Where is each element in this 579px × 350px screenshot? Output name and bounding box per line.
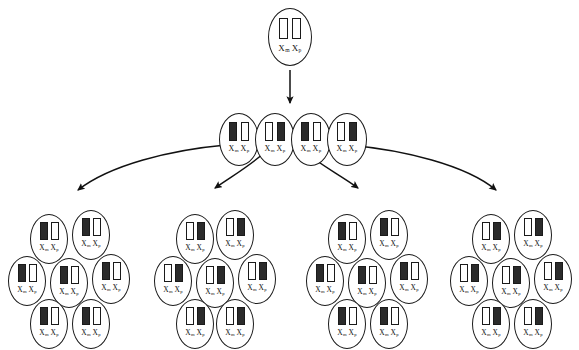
maternal-x-chromosome-active [164,264,172,282]
clone-4-cell-c4e: XmXp [534,254,572,304]
paternal-x-chromosome-inactive [175,264,183,282]
paternal-x-chromosome-inactive [555,262,563,280]
genotype-label: XmXp [337,329,357,337]
genotype-label: XmXp [481,244,501,252]
clone-2-cell-c2b: XmXp [216,210,254,260]
maternal-x-chromosome-inactive [338,307,346,325]
clone-2-cell-c2g: XmXp [216,299,254,349]
clone-4-cell-c4a: XmXp [472,214,510,264]
clone-1-cell-c1b: XmXp [72,210,110,260]
maternal-x-chromosome-active [482,222,490,240]
paternal-x-chromosome-active [411,262,419,280]
paternal-x-chromosome-inactive [237,307,245,325]
chromosome-pair [316,264,335,282]
maternal-x-chromosome-active [502,266,510,284]
clone-2-cell-c2e: XmXp [238,254,276,304]
paternal-x-chromosome-inactive [277,122,286,141]
genotype-label: XmXp [265,145,286,153]
chromosome-pair [358,266,377,284]
genotype-label: XmXp [459,286,479,294]
chromosome-pair [460,264,479,282]
paternal-x-chromosome-active [51,222,59,240]
maternal-x-chromosome-inactive [358,266,366,284]
chromosome-pair [82,218,101,236]
chromosome-pair [60,266,79,284]
genotype-label: XmXp [101,284,121,292]
genotype-label: XmXp [225,240,245,248]
genotype-label: XmXp [229,145,250,153]
chromosome-pair [400,262,419,280]
paternal-x-chromosome-active [391,307,399,325]
genotype-label: XmXp [247,284,267,292]
clone-2-cell-c2f: XmXp [176,299,214,349]
early-blastocyst-cell-b1: XmXp [219,113,259,166]
chromosome-pair [164,264,183,282]
clone-3-cell-c3c: XmXp [306,256,344,306]
chromosome-pair [40,307,59,325]
paternal-x-chromosome-inactive [493,222,501,240]
chromosome-pair [226,307,245,325]
genotype-label: XmXp [543,284,563,292]
genotype-label: XmXp [379,329,399,337]
clone-1-cell-c1g: XmXp [72,299,110,349]
chromosome-pair [265,122,286,141]
clone-3-cell-c3b: XmXp [370,210,408,260]
maternal-x-chromosome-active [248,262,256,280]
paternal-x-chromosome-active [391,218,399,236]
maternal-x-chromosome-active [265,122,274,141]
maternal-x-chromosome-active [226,307,234,325]
chromosome-pair [380,218,399,236]
clone-1-cell-c1f: XmXp [30,299,68,349]
clone-3-cell-c3a: XmXp [328,214,366,264]
paternal-x-chromosome-active [369,266,377,284]
genotype-label: XmXp [278,44,301,53]
genotype-label: XmXp [523,329,543,337]
paternal-x-chromosome-active [71,266,79,284]
chromosome-pair [502,266,521,284]
genotype-label: XmXp [59,288,79,296]
maternal-x-chromosome-active [186,222,194,240]
chromosome-pair [229,122,250,141]
zygote-cell-z1: XmXp [268,8,312,66]
maternal-x-chromosome-inactive [338,222,346,240]
genotype-label: XmXp [315,286,335,294]
paternal-x-chromosome-active [349,222,357,240]
maternal-x-chromosome-active [544,262,552,280]
genotype-label: XmXp [301,145,322,153]
maternal-x-chromosome-inactive [301,122,310,141]
maternal-x-chromosome-inactive [316,264,324,282]
clone-2-cell-c2a: XmXp [176,214,214,264]
maternal-x-chromosome-inactive [400,262,408,280]
maternal-x-chromosome-inactive [40,307,48,325]
paternal-x-chromosome-active [241,122,250,141]
chromosome-pair [248,262,267,280]
maternal-x-chromosome-inactive [380,218,388,236]
chromosome-pair [186,307,205,325]
genotype-label: XmXp [163,286,183,294]
clone-4-cell-c4b: XmXp [514,210,552,260]
paternal-x-chromosome-active [349,307,357,325]
paternal-x-chromosome-inactive [349,122,358,141]
clone-4-cell-c4c: XmXp [450,256,488,306]
genotype-label: XmXp [337,244,357,252]
clone-4-cell-c4g: XmXp [514,299,552,349]
maternal-x-chromosome-active [206,266,214,284]
paternal-x-chromosome-inactive [471,264,479,282]
chromosome-pair [18,264,37,282]
clone-2-cell-c2c: XmXp [154,256,192,306]
chromosome-pair [226,218,245,236]
maternal-x-chromosome-inactive [18,264,26,282]
clone-4-cell-c4f: XmXp [472,299,510,349]
arrow-to-clone-4 [348,145,496,190]
maternal-x-chromosome-active [482,307,490,325]
cell-lineage-diagram: XmXpXmXpXmXpXmXpXmXpXmXpXmXpXmXpXmXpXmXp… [0,0,579,350]
paternal-x-chromosome-inactive [197,307,205,325]
chromosome-pair [482,222,501,240]
paternal-x-chromosome-active [313,122,322,141]
paternal-x-chromosome-active [29,264,37,282]
genotype-label: XmXp [225,329,245,337]
genotype-label: XmXp [185,329,205,337]
paternal-x-chromosome-active [93,307,101,325]
maternal-x-chromosome-active [186,307,194,325]
genotype-label: XmXp [205,288,225,296]
